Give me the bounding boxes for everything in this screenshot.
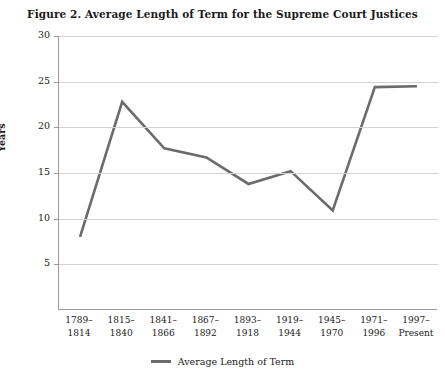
y-axis-title: Years: [0, 123, 7, 152]
y-tick-label-15: 15: [24, 166, 50, 177]
chart-title: Figure 2. Average Length of Term for the…: [0, 8, 445, 20]
y-tick-label-30: 30: [24, 29, 50, 40]
gridline-30: [59, 36, 438, 37]
y-tick-label-20: 20: [24, 120, 50, 131]
series-polyline: [80, 86, 417, 237]
y-tick-label-5: 5: [24, 257, 50, 268]
x-axis-labels: 1789–18141815–18401841–18661867–18921893…: [58, 314, 437, 352]
gridline-10: [59, 219, 438, 220]
gridline-25: [59, 82, 438, 83]
y-tick-label-10: 10: [24, 212, 50, 223]
x-tick-label-8: 1997–Present: [389, 314, 443, 339]
gridline-20: [59, 127, 438, 128]
legend-label: Average Length of Term: [178, 356, 295, 367]
gridline-5: [59, 264, 438, 265]
legend-color-swatch: [151, 360, 171, 363]
legend: Average Length of Term: [0, 356, 445, 367]
plot-area: [58, 36, 437, 310]
figure-container: Figure 2. Average Length of Term for the…: [0, 0, 445, 378]
y-tick-label-25: 25: [24, 75, 50, 86]
gridline-15: [59, 173, 438, 174]
